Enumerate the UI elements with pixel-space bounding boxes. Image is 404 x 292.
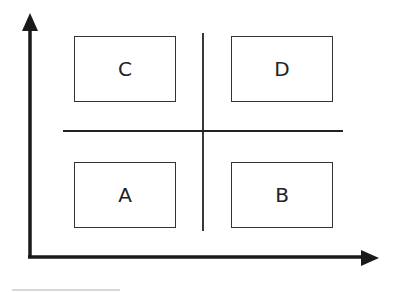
quadrant-d: D xyxy=(231,36,333,102)
diagram-canvas xyxy=(0,0,404,292)
quadrant-c: C xyxy=(74,36,176,102)
quadrant-b: B xyxy=(231,162,333,228)
x-axis-arrow-icon xyxy=(361,250,379,266)
quadrant-a: A xyxy=(74,162,176,228)
y-axis-arrow-icon xyxy=(22,13,38,31)
